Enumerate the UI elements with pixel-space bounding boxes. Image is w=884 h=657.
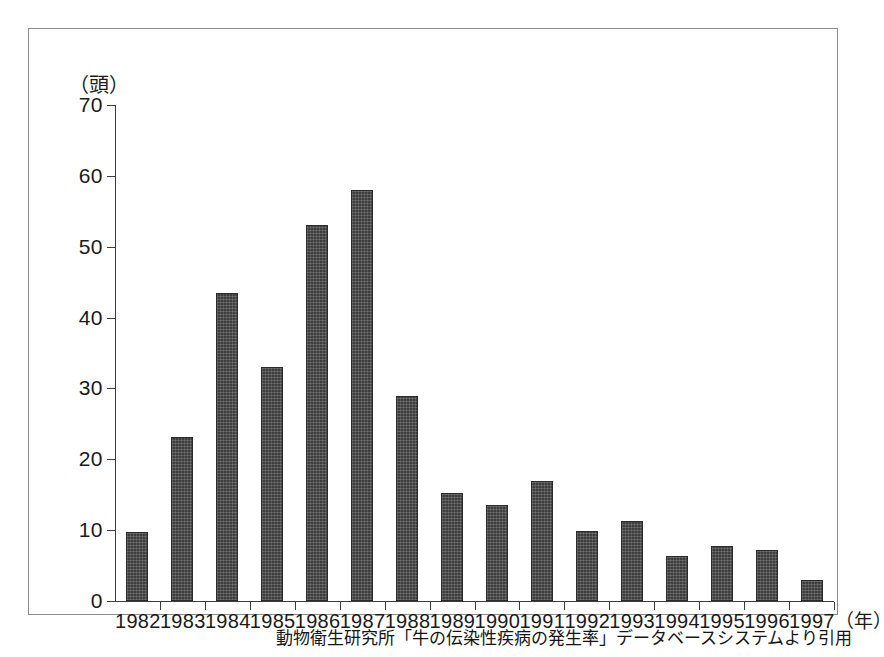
bar [351, 190, 373, 601]
bar [621, 521, 643, 601]
y-tick-mark [107, 318, 115, 319]
bar [261, 367, 283, 601]
bar [396, 396, 418, 601]
y-tick-mark [107, 105, 115, 106]
y-tick-label: 10 [79, 517, 103, 543]
bar [486, 505, 508, 601]
y-tick-label: 20 [79, 446, 103, 472]
bar [756, 550, 778, 601]
bar [216, 293, 238, 601]
bar [171, 437, 193, 601]
y-tick-mark [107, 388, 115, 389]
figure-caption: 動物衛生研究所「牛の伝染性疾病の発生率」データベースシステムより引用 [0, 626, 852, 650]
y-tick-label: 50 [79, 234, 103, 260]
y-tick-label: 40 [79, 305, 103, 331]
y-tick-label: 30 [79, 375, 103, 401]
bar [666, 556, 688, 601]
bar [576, 531, 598, 601]
plot-area: 70 60 50 40 30 20 [115, 105, 835, 601]
y-tick-mark [107, 601, 115, 602]
y-tick-mark [107, 530, 115, 531]
bar [126, 532, 148, 601]
bars-layer [115, 105, 835, 601]
chart-frame: （頭） 70 60 50 40 30 [28, 28, 838, 615]
bar [531, 481, 553, 601]
y-tick-mark [107, 176, 115, 177]
bar [801, 580, 823, 601]
y-tick-mark [107, 459, 115, 460]
y-tick-label: 60 [79, 163, 103, 189]
y-tick-label: 70 [79, 92, 103, 118]
y-tick-mark [107, 247, 115, 248]
bar [441, 493, 463, 601]
bar [306, 225, 328, 601]
y-tick-label: 0 [91, 588, 103, 614]
bar [711, 546, 733, 601]
